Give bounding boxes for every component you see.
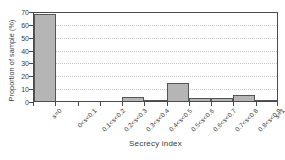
y-tick-label: 30 xyxy=(15,60,29,67)
bar-cell xyxy=(211,13,233,101)
x-tick-mark xyxy=(55,102,56,106)
x-tick-mark xyxy=(33,102,34,106)
bar-cell xyxy=(56,13,78,101)
y-tick-label: 0 xyxy=(15,99,29,106)
x-tick-mark xyxy=(277,102,278,106)
x-tick-mark xyxy=(211,102,212,106)
y-tick-label: 40 xyxy=(15,47,29,54)
x-tick-mark xyxy=(144,102,145,106)
bar-cell xyxy=(100,13,122,101)
x-tick-label: 0.2<s<0.3 xyxy=(123,107,149,133)
x-tick-label: 0.1<s<0.2 xyxy=(100,107,126,133)
bar[interactable] xyxy=(167,83,189,101)
bar[interactable] xyxy=(189,98,211,101)
bar-cell xyxy=(144,13,166,101)
bar-cell xyxy=(233,13,255,101)
y-tick-label: 70 xyxy=(15,9,29,16)
x-tick-label: 0.3<s<0.4 xyxy=(145,107,171,133)
bar-cell xyxy=(189,13,211,101)
x-tick-label: s=0 xyxy=(50,107,63,120)
x-axis-title: Secrecy index xyxy=(33,139,278,148)
x-tick-mark xyxy=(78,102,79,106)
x-tick-mark xyxy=(100,102,101,106)
bar-series xyxy=(34,13,277,101)
bar[interactable] xyxy=(211,98,233,101)
x-tick-mark xyxy=(122,102,123,106)
x-axis-tick-labels: s=00<s<0.10.1<s<0.20.2<s<0.30.3<s<0.40.4… xyxy=(33,107,278,137)
x-tick-mark xyxy=(167,102,168,106)
x-tick-label: 0.6<s<0.7 xyxy=(212,107,238,133)
plot-area xyxy=(33,12,278,102)
y-tick-label: 60 xyxy=(15,21,29,28)
x-tick-mark xyxy=(233,102,234,106)
x-tick-mark xyxy=(189,102,190,106)
x-tick-label: 0.4<s<0.5 xyxy=(167,107,193,133)
bar-cell xyxy=(34,13,56,101)
y-tick-label: 10 xyxy=(15,86,29,93)
bar-cell xyxy=(122,13,144,101)
x-tick-label: 0.7<s<0.8 xyxy=(234,107,260,133)
y-axis-tick-labels: 010203040506070 xyxy=(12,0,29,160)
bar-chart-figure: Proportion of sample (%) 010203040506070… xyxy=(0,0,285,160)
bar[interactable] xyxy=(255,100,277,101)
bar-cell xyxy=(255,13,277,101)
bar[interactable] xyxy=(122,97,144,101)
bar[interactable] xyxy=(233,95,255,101)
bar[interactable] xyxy=(144,100,166,101)
x-tick-label: 0.5<s<0.6 xyxy=(189,107,215,133)
bar-cell xyxy=(167,13,189,101)
y-tick-label: 50 xyxy=(15,34,29,41)
y-tick-label: 20 xyxy=(15,73,29,80)
x-tick-mark xyxy=(256,102,257,106)
bar[interactable] xyxy=(34,14,56,101)
bar-cell xyxy=(78,13,100,101)
x-tick-label: 0<s<0.1 xyxy=(76,107,98,129)
